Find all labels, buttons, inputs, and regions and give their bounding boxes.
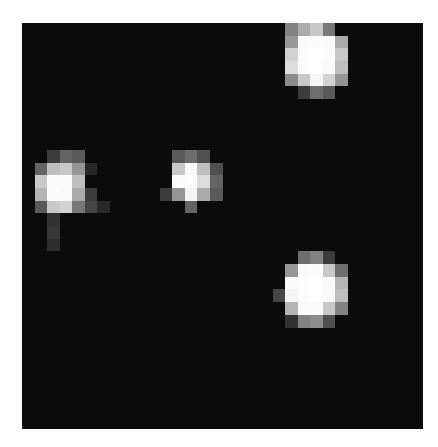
middle-blob-pixel — [172, 188, 185, 201]
bottom-right-blob-pixel — [285, 315, 298, 328]
bottom-right-blob-pixel — [323, 277, 336, 290]
middle-blob-pixel — [210, 175, 223, 188]
bottom-right-blob-pixel — [310, 289, 323, 302]
pixel-image — [22, 23, 423, 429]
bottom-right-blob-pixel — [298, 302, 311, 315]
top-right-blob-pixel — [323, 86, 336, 99]
left-blob-pixel — [35, 201, 48, 214]
bottom-right-blob-pixel — [310, 277, 323, 290]
top-right-blob-pixel — [310, 48, 323, 61]
bottom-right-blob-pixel — [298, 277, 311, 290]
bottom-right-blob-pixel — [323, 251, 336, 264]
top-right-blob-pixel — [285, 61, 298, 74]
left-blob-pixel — [72, 163, 85, 176]
top-right-blob-pixel — [335, 48, 348, 61]
bottom-right-blob-pixel — [323, 302, 336, 315]
left-blob-pixel — [47, 188, 60, 201]
left-blob-pixel — [35, 163, 48, 176]
left-blob-pixel — [47, 163, 60, 176]
top-right-blob-pixel — [298, 36, 311, 49]
top-right-blob-pixel — [285, 74, 298, 87]
left-blob-pixel — [72, 188, 85, 201]
bottom-right-blob-pixel — [298, 315, 311, 328]
top-right-blob-pixel — [285, 23, 298, 36]
bottom-right-blob-pixel — [285, 302, 298, 315]
top-right-blob-pixel — [310, 23, 323, 36]
top-right-blob-pixel — [310, 61, 323, 74]
top-right-blob-pixel — [335, 36, 348, 49]
top-right-blob-pixel — [298, 48, 311, 61]
middle-blob-pixel — [185, 150, 198, 163]
top-right-blob-pixel — [298, 61, 311, 74]
bottom-right-blob-pixel — [310, 251, 323, 264]
top-right-blob-pixel — [335, 74, 348, 87]
left-blob-pixel — [60, 163, 73, 176]
top-right-blob-pixel — [323, 74, 336, 87]
top-right-blob-pixel — [285, 48, 298, 61]
middle-blob-pixel — [172, 163, 185, 176]
bottom-right-blob-pixel — [298, 251, 311, 264]
bottom-right-blob-pixel — [335, 277, 348, 290]
left-blob-pixel — [47, 201, 60, 214]
bottom-right-blob-pixel — [323, 289, 336, 302]
left-blob-pixel — [60, 188, 73, 201]
bottom-right-blob-pixel — [310, 264, 323, 277]
top-right-blob-pixel — [310, 74, 323, 87]
left-blob-pixel — [72, 175, 85, 188]
left-blob-pixel — [47, 175, 60, 188]
top-right-blob-pixel — [323, 36, 336, 49]
middle-blob-pixel — [185, 175, 198, 188]
top-right-blob-pixel — [298, 74, 311, 87]
bottom-right-blob-pixel — [310, 315, 323, 328]
left-blob-pixel — [72, 150, 85, 163]
bottom-right-blob-pixel — [298, 264, 311, 277]
bottom-right-blob-pixel — [335, 302, 348, 315]
top-right-blob-pixel — [298, 23, 311, 36]
middle-blob-pixel — [197, 163, 210, 176]
top-right-blob-pixel — [323, 23, 336, 36]
left-blob-pixel — [85, 201, 98, 214]
left-blob-pixel — [60, 150, 73, 163]
left-blob-pixel — [47, 213, 60, 226]
top-right-blob-pixel — [323, 61, 336, 74]
left-blob-pixel — [97, 201, 110, 214]
top-right-blob-pixel — [335, 61, 348, 74]
top-right-blob-pixel — [298, 86, 311, 99]
top-right-blob-pixel — [285, 36, 298, 49]
bottom-right-blob-pixel — [273, 289, 286, 302]
left-blob-pixel — [35, 175, 48, 188]
middle-blob-pixel — [197, 175, 210, 188]
left-blob-pixel — [60, 175, 73, 188]
left-blob-pixel — [72, 201, 85, 214]
middle-blob-pixel — [185, 201, 198, 214]
bottom-right-blob-pixel — [323, 315, 336, 328]
middle-blob-pixel — [210, 163, 223, 176]
bottom-right-blob-pixel — [335, 289, 348, 302]
bottom-right-blob-pixel — [285, 289, 298, 302]
bottom-right-blob-pixel — [285, 264, 298, 277]
middle-blob-pixel — [172, 150, 185, 163]
left-blob-pixel — [47, 239, 60, 252]
top-right-blob-pixel — [310, 86, 323, 99]
left-blob-pixel — [35, 188, 48, 201]
top-right-blob-pixel — [323, 48, 336, 61]
middle-blob-pixel — [160, 188, 173, 201]
bottom-right-blob-pixel — [298, 289, 311, 302]
left-blob-pixel — [85, 163, 98, 176]
middle-blob-pixel — [185, 188, 198, 201]
left-blob-pixel — [47, 150, 60, 163]
left-blob-pixel — [47, 226, 60, 239]
left-blob-pixel — [60, 201, 73, 214]
bottom-right-blob-pixel — [285, 277, 298, 290]
middle-blob-pixel — [172, 175, 185, 188]
bottom-right-blob-pixel — [323, 264, 336, 277]
bottom-right-blob-pixel — [310, 302, 323, 315]
middle-blob-pixel — [185, 163, 198, 176]
top-right-blob-pixel — [310, 36, 323, 49]
bottom-right-blob-pixel — [335, 264, 348, 277]
middle-blob-pixel — [197, 150, 210, 163]
middle-blob-pixel — [197, 188, 210, 201]
left-blob-pixel — [85, 188, 98, 201]
middle-blob-pixel — [210, 188, 223, 201]
